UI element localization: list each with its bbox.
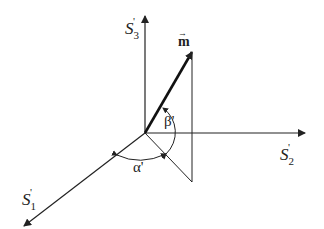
s2-label: S2' <box>280 141 294 167</box>
projection-plane-line <box>145 133 192 182</box>
s1-label: S1' <box>22 186 36 212</box>
m-vector-accent: → <box>178 28 187 38</box>
coordinate-diagram: S3' S2' S1' m → β' α' <box>0 0 324 229</box>
alpha-label: α' <box>133 159 144 175</box>
s1-axis <box>24 133 145 226</box>
s3-label: S3' <box>125 15 140 41</box>
beta-label: β' <box>164 113 175 129</box>
